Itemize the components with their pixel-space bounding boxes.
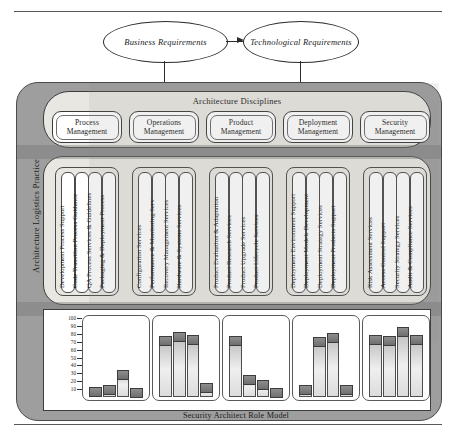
- y-tick: 70: [50, 339, 76, 346]
- arrow-business-to-practice: [164, 61, 165, 83]
- chart-bar: [257, 380, 270, 397]
- y-tick: 40: [50, 362, 76, 369]
- y-tick: 100: [50, 315, 76, 322]
- bar-stack: [159, 319, 213, 397]
- activity-label: Code Transition Process Guidance: [71, 194, 78, 288]
- y-tick: 80: [50, 331, 76, 338]
- chart-bar-cap: [200, 383, 213, 393]
- technological-requirements-label: Technological Requirements: [250, 37, 352, 47]
- chart-bar-cap: [327, 333, 340, 343]
- chart-bar: [173, 332, 186, 397]
- chart-bar-cap: [243, 375, 256, 385]
- activity-label: Deployment Products Support: [329, 205, 336, 288]
- y-tick: 20: [50, 378, 76, 385]
- discipline-label-operations: OperationsManagement: [144, 118, 185, 137]
- chart-bar: [243, 375, 256, 397]
- chart-bar-cap: [187, 335, 200, 345]
- activity-pill[interactable]: Audit & Compliance Services: [410, 172, 424, 293]
- chart-group-security: [362, 315, 430, 401]
- chart-bar-cap: [117, 370, 130, 380]
- chart-bar: [397, 327, 410, 397]
- activity-label: Performance & Monitoring Serv: [148, 199, 155, 288]
- activity-label: Access Control Support: [379, 223, 386, 288]
- chart-bar-cap: [397, 327, 410, 337]
- activity-pill[interactable]: Packaging & Deployment Process: [102, 172, 116, 293]
- activity-pill[interactable]: Hardware & Systems Services: [179, 172, 193, 293]
- chart-bar-cap: [383, 336, 396, 346]
- chart-group-deployment: [292, 315, 360, 401]
- solution-activity-group-deployment: Deployment Environment SupportDeployment…: [286, 167, 350, 296]
- activity-label: Product Lifecycle Services: [252, 214, 259, 288]
- bar-stack: [369, 319, 423, 397]
- activity-label: Deployment Models Development: [302, 194, 309, 288]
- chart-bar: [299, 385, 312, 397]
- chart-bar-cap: [340, 385, 353, 395]
- technological-requirements-node: Technological Requirements: [243, 21, 359, 63]
- y-tick-label: 50: [71, 355, 76, 361]
- activity-label: Recovery Management Services: [162, 200, 169, 288]
- architecture-disciplines-band: Architecture Disciplines ProcessManageme…: [43, 91, 431, 148]
- activity-label: Configuration Services: [135, 225, 142, 288]
- y-tick-label: 60: [71, 347, 76, 353]
- y-tick-mark: [77, 318, 82, 319]
- activity-label: Product Research Services: [225, 215, 232, 288]
- activity-label: Product Evaluation & Adaptation: [212, 197, 219, 288]
- solution-activity-group-operations: Configuration ServicesPerformance & Moni…: [132, 167, 196, 296]
- bar-stack: [89, 319, 143, 397]
- solution-activity-group-process: Development Process SupportCode Transiti…: [55, 167, 119, 296]
- chart-y-axis: 100908070605040302010: [50, 315, 76, 393]
- discipline-box-security[interactable]: SecurityManagement: [360, 111, 430, 143]
- chart-bar: [340, 385, 353, 397]
- activity-label: Product Upgrade Services: [239, 217, 246, 288]
- discipline-label-process: ProcessManagement: [67, 118, 108, 137]
- activity-label: Security Strategy Services: [393, 216, 400, 288]
- chart-bar-cap: [103, 385, 116, 395]
- chart-group-process: [82, 315, 150, 401]
- discipline-box-process[interactable]: ProcessManagement: [52, 111, 122, 143]
- discipline-box-product[interactable]: ProductManagement: [206, 111, 276, 143]
- y-tick-label: 40: [71, 362, 76, 368]
- activity-pill[interactable]: Product Lifecycle Services: [256, 172, 270, 293]
- y-tick-label: 80: [71, 331, 76, 337]
- solution-activity-group-product: Product Evaluation & AdaptationProduct R…: [209, 167, 273, 296]
- business-requirements-node: Business Requirements: [103, 21, 228, 63]
- activity-label: QA Process Services & Guidelines: [85, 193, 92, 288]
- chart-bar-cap: [130, 388, 143, 398]
- chart-bar: [383, 336, 396, 397]
- arrow-technological-to-practice: [300, 61, 301, 83]
- security-architect-role-model-caption: Security Architect Role Model: [43, 411, 429, 420]
- chart-bar: [89, 387, 102, 397]
- bar-stack: [229, 319, 283, 397]
- discipline-box-deployment[interactable]: DeploymentManagement: [283, 111, 353, 143]
- chart-bar-cap: [229, 336, 242, 346]
- activity-label: Development Process Support: [58, 205, 65, 288]
- y-tick: 30: [50, 370, 76, 377]
- chart-bar: [410, 335, 423, 397]
- chart-bar: [200, 383, 213, 397]
- y-tick-label: 20: [71, 378, 76, 384]
- chart-bar: [369, 335, 382, 397]
- chart-bar-cap: [410, 335, 423, 345]
- chart-bar-cap: [89, 387, 102, 397]
- y-tick: 50: [50, 355, 76, 362]
- solution-activities-band: Solution Activities Development Process …: [43, 156, 431, 305]
- chart-bar-cap: [173, 332, 186, 342]
- role-model-chart-panel: 100908070605040302010: [43, 309, 431, 411]
- y-tick-label: 90: [71, 323, 76, 329]
- discipline-box-operations[interactable]: OperationsManagement: [129, 111, 199, 143]
- y-tick: 60: [50, 347, 76, 354]
- chart-bar: [270, 388, 283, 397]
- chart-bar-cap: [257, 380, 270, 390]
- bar-stack: [299, 319, 353, 397]
- chart-bar: [229, 336, 242, 397]
- activity-pill[interactable]: Deployment Products Support: [333, 172, 347, 293]
- y-tick-label: 10: [71, 386, 76, 392]
- page-rule-top: [14, 11, 442, 12]
- chart-bar: [103, 385, 116, 397]
- chart-bar-cap: [159, 336, 172, 346]
- chart-bar-cap: [270, 388, 283, 398]
- chart-bar-cap: [369, 335, 382, 345]
- activity-label: Deployment Environment Support: [289, 194, 296, 288]
- chart-group-operations: [152, 315, 220, 401]
- chart-bar: [130, 388, 143, 397]
